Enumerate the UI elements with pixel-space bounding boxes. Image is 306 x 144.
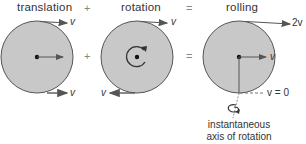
rotation-title: rotation [121,1,161,13]
caption-line-1: instantaneous [199,119,279,131]
translation-bottom-velocity: v [70,87,75,98]
rotation-bottom-velocity: v [101,87,106,98]
translation-title: translation [17,1,72,13]
plus-operator-top: + [84,2,90,14]
equals-operator: = [186,50,192,62]
rotation-top-velocity: v [171,16,176,27]
translation-top-velocity: v [70,16,75,27]
rolling-disk [203,21,290,118]
rolling-center-velocity: v [270,51,275,62]
rotation-disk [101,21,173,93]
rolling-top-velocity: 2v [292,17,303,28]
axis-caption: instantaneous axis of rotation [199,119,279,143]
plus-operator: + [84,50,90,62]
caption-line-2: axis of rotation [199,131,279,143]
equals-operator-top: = [186,2,192,14]
rolling-title: rolling [226,1,258,13]
translation-disk [1,21,73,93]
rolling-contact-velocity: v = 0 [267,87,289,98]
